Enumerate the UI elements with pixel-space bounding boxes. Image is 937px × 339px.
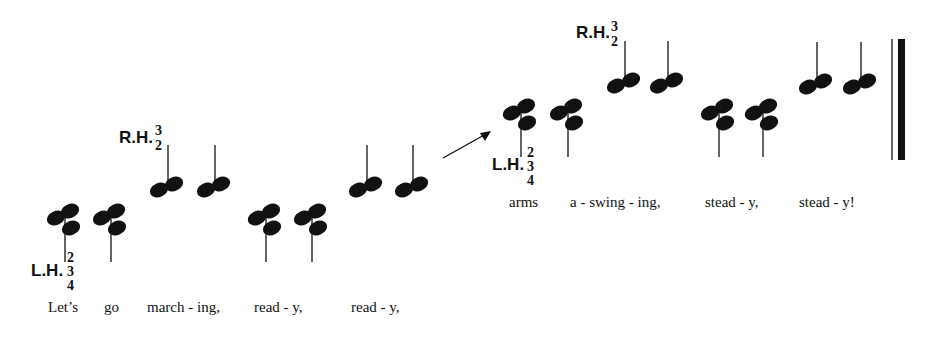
rh-chord: [194, 145, 232, 200]
rh-chord: [647, 41, 685, 96]
lh-finger: 2: [527, 145, 534, 160]
lyric: Let’s: [48, 299, 78, 315]
lh-chord: [698, 96, 736, 157]
rh-chord: [346, 145, 384, 200]
rh-finger: 3: [611, 19, 618, 34]
lh-finger: 4: [527, 173, 534, 188]
lyric: a - swing - ing,: [570, 194, 660, 210]
lh-chord: [547, 96, 585, 157]
rh-finger: 3: [155, 123, 162, 138]
lh-chord: [742, 96, 780, 157]
lyric: go: [104, 299, 119, 315]
lh-label: L.H.: [31, 261, 63, 280]
lh-label: L.H.: [492, 155, 524, 174]
lh-finger: 3: [67, 264, 74, 279]
rh-label: R.H.: [576, 23, 610, 42]
lh-chord: [291, 201, 329, 262]
rh-chord: [392, 145, 430, 200]
rh-finger: 2: [155, 138, 162, 153]
lh-chord: [245, 201, 283, 262]
arrow-icon: [443, 131, 491, 158]
line-2: R.H. 3 2 L.H. 2 3 4 arms a - swing - ing…: [492, 19, 905, 210]
rh-label: R.H.: [119, 128, 153, 147]
lyric: read - y,: [351, 299, 400, 315]
lyric: read - y,: [254, 299, 303, 315]
rh-chord: [796, 42, 834, 97]
final-barline: [892, 39, 905, 160]
lyric: stead - y,: [705, 194, 759, 210]
lyric: march - ing,: [147, 299, 220, 315]
lh-finger: 3: [527, 159, 534, 174]
lyric: stead - y!: [799, 194, 855, 210]
rh-finger: 2: [611, 34, 618, 49]
lh-chord: [90, 201, 128, 262]
music-score: R.H. 3 2 L.H. 2 3 4 Let’s go march - ing…: [0, 0, 937, 339]
line-1: R.H. 3 2 L.H. 2 3 4 Let’s go march - ing…: [31, 123, 431, 315]
lh-finger: 2: [67, 250, 74, 265]
rh-chord: [604, 41, 642, 96]
rh-chord: [147, 145, 185, 200]
lyric: arms: [509, 194, 538, 210]
lh-finger: 4: [67, 278, 74, 293]
lh-chord: [44, 201, 82, 262]
rh-chord: [840, 42, 878, 97]
